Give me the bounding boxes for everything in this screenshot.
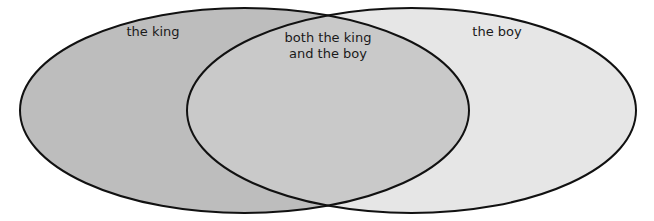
left-set-label: the king [118,24,188,40]
intersection-label-line2: and the boy [278,46,378,62]
intersection-label-line1: both the king [278,30,378,46]
right-set-label: the boy [462,24,532,40]
